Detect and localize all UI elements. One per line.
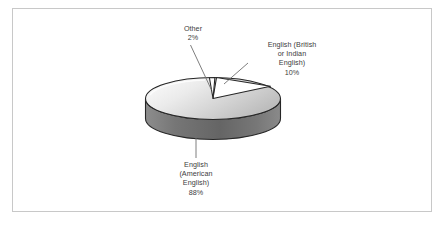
- pie-label-other-percent: 2%: [158, 33, 228, 42]
- pie-label-british-indian: English (British or Indian English) 10%: [240, 40, 344, 77]
- pie-label-american-percent: 88%: [140, 188, 252, 197]
- pie-label-british-percent: 10%: [240, 68, 344, 77]
- pie-label-british-line3: English): [240, 58, 344, 67]
- pie-label-american-english: English (American English) 88%: [140, 160, 252, 197]
- pie-label-american-line1: English: [140, 160, 252, 169]
- pie-label-american-line3: English): [140, 178, 252, 187]
- pie-label-other: Other 2%: [158, 24, 228, 42]
- pie-label-american-line2: (American: [140, 169, 252, 178]
- pie-label-other-name: Other: [158, 24, 228, 33]
- chart-figure: Other 2% English (British or Indian Engl…: [0, 0, 444, 230]
- pie-label-british-line1: English (British: [240, 40, 344, 49]
- pie-label-british-line2: or Indian: [240, 49, 344, 58]
